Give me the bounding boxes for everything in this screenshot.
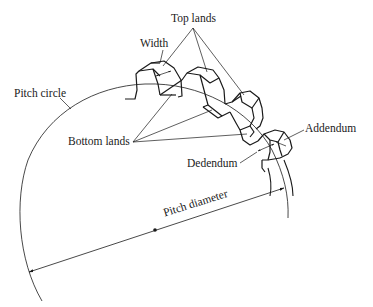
pitch-circle-leader: [60, 98, 71, 109]
gear-teeth: [125, 61, 292, 172]
dedendum-leader: [240, 152, 257, 163]
top-lands-leader-2: [193, 28, 207, 72]
pitch-circle-label: Pitch circle: [14, 88, 66, 100]
pitch-circle: [20, 84, 293, 301]
addendum-dimension: [276, 142, 286, 146]
gear-tooth-1: [125, 61, 182, 99]
diagram-drawing: [0, 0, 373, 307]
gear-tooth-3: [230, 91, 263, 145]
top-lands-leader-3: [193, 28, 244, 95]
pitch-diameter: [29, 188, 284, 272]
width-label: Width: [140, 38, 168, 50]
center-point: [153, 228, 157, 232]
top-lands-label: Top lands: [171, 13, 216, 25]
addendum-label: Addendum: [305, 123, 356, 135]
bottom-lands-label: Bottom lands: [68, 136, 130, 148]
dedendum-label: Dedendum: [187, 158, 237, 170]
gear-nomenclature-diagram: Top lands Width Pitch circle Bottom land…: [0, 0, 373, 307]
bottom-lands-leader-1: [133, 94, 172, 142]
